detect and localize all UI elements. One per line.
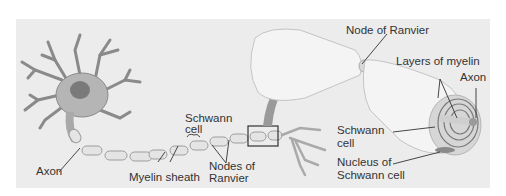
label-axon-right: Axon	[460, 71, 486, 84]
label-nucleus-1: Nucleus of	[337, 156, 391, 169]
label-axon-left: Axon	[36, 165, 62, 178]
nucleus	[70, 81, 90, 99]
label-myelin-sheath: Myelin sheath	[129, 171, 200, 184]
label-schwann-cell-right-2: cell	[337, 137, 354, 150]
label-nodes-of-ranvier-2: Ranvier	[209, 172, 249, 185]
axon-core	[469, 118, 477, 126]
label-node-of-ranvier: Node of Ranvier	[346, 24, 429, 37]
label-nucleus-2: Schwann cell	[337, 169, 405, 182]
label-schwann-cell-right-1: Schwann	[337, 124, 384, 137]
axon-terminals	[282, 128, 325, 175]
label-schwann-cell-2: cell	[185, 123, 202, 136]
myelin-segments	[67, 127, 282, 161]
label-layers-of-myelin: Layers of myelin	[396, 55, 480, 68]
